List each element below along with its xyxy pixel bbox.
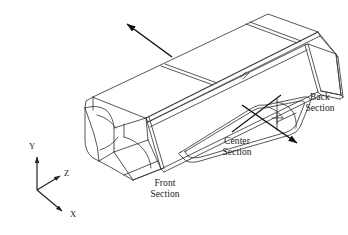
beam-top-face [93, 14, 320, 122]
callout-center-section-line1: Center [211, 136, 263, 147]
callout-center-section: Center Section [211, 136, 263, 157]
axis-label-z: Z [64, 168, 69, 178]
callout-front-section-line1: Front [140, 178, 190, 189]
front-internal-fillet [97, 115, 118, 150]
callout-back-section: Back Section [296, 92, 344, 113]
callout-front-section-line2: Section [140, 189, 190, 200]
callout-back-section-line1: Back [296, 92, 344, 103]
flow-direction-arrow [127, 24, 172, 57]
axis-label-y: Y [29, 141, 35, 151]
front-section-web [114, 118, 148, 152]
coordinate-axes [37, 157, 62, 211]
center-upper-rail [148, 45, 307, 127]
callout-back-section-line2: Section [296, 103, 344, 114]
axis-label-x: X [70, 209, 76, 219]
axis-x-line [37, 190, 62, 211]
front-end-cap [85, 97, 114, 161]
callout-center-section-line2: Section [211, 147, 263, 158]
axis-z-line [37, 176, 60, 190]
callout-front-section: Front Section [140, 178, 190, 199]
box-beam-isometric-drawing [0, 0, 348, 235]
figure-canvas: Front Section Center Section Back Sectio… [0, 0, 348, 235]
center-back-rib [305, 44, 321, 92]
